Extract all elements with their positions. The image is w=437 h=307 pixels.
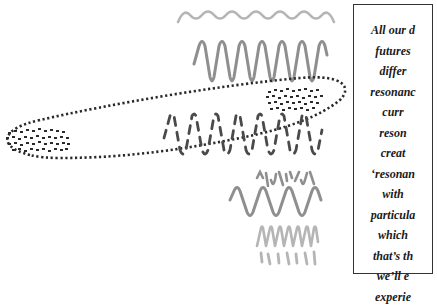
caption-line: curr: [338, 102, 437, 123]
caption-line: with: [338, 184, 437, 205]
caption-line: resonanc: [338, 82, 437, 103]
caption-line: particula: [338, 205, 437, 226]
caption-line: futures: [338, 41, 437, 62]
caption-line: creat: [338, 143, 437, 164]
light-sharp-wave: [257, 227, 318, 247]
caption-line: which: [338, 225, 437, 246]
dense-dot-cluster-right: [266, 88, 323, 111]
caption-line: experie: [338, 287, 437, 307]
broken-dashed-wave: [164, 114, 322, 154]
small-broken-wave: [257, 172, 314, 186]
caption-line: that’s th: [338, 246, 437, 267]
caption-line: we’ll e: [338, 266, 437, 287]
bottom-fragment-wave: [261, 252, 315, 264]
top-smooth-wave: [178, 12, 334, 23]
caption-line: ‘resonan: [338, 164, 437, 185]
caption-line: differ: [338, 61, 437, 82]
caption-box: All our d futures differ resonanc curr r…: [353, 4, 433, 274]
dotted-ellipse: [7, 77, 345, 158]
tall-wave: [194, 42, 327, 82]
caption-line: All our d: [338, 20, 437, 41]
caption-line: reson: [338, 123, 437, 144]
medium-smooth-wave: [230, 188, 321, 216]
